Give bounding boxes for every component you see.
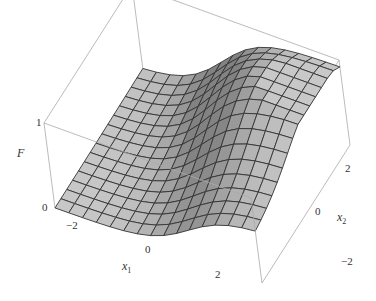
plot-canvas [0, 0, 376, 301]
x1-tick-0: 0 [145, 244, 151, 255]
surface-plot: 1 0 F −2 0 2 x1 −2 0 2 x2 [0, 0, 376, 301]
x2-tick-neg2: −2 [341, 256, 353, 267]
x1-tick-neg2: −2 [66, 220, 78, 231]
x2-tick-2: 2 [345, 163, 351, 174]
x1-tick-2: 2 [215, 269, 221, 280]
f-axis-label: F [17, 147, 24, 159]
x2-tick-0: 0 [315, 206, 321, 217]
f-tick-0: 0 [42, 202, 48, 213]
x1-axis-label: x1 [122, 260, 131, 275]
f-tick-1: 1 [36, 117, 42, 128]
x2-axis-label: x2 [337, 211, 346, 226]
